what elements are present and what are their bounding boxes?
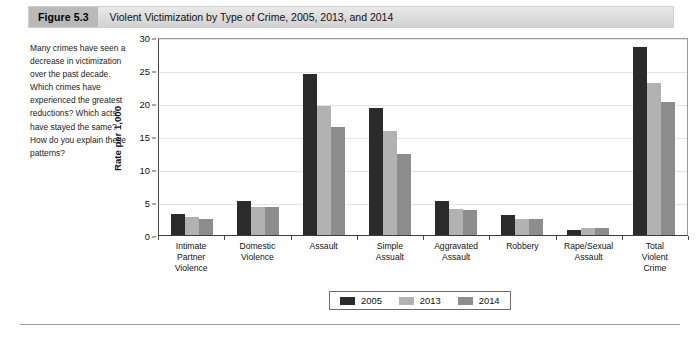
x-axis-tick — [423, 236, 424, 240]
legend-swatch-icon — [458, 297, 473, 305]
x-axis-label-line: Total — [622, 241, 688, 252]
y-axis-tick-30: 30 — [140, 33, 150, 44]
x-axis-label-2: Assault — [291, 241, 357, 273]
x-axis-tick — [489, 236, 490, 240]
x-axis-label-line: Rape/Sexual — [556, 241, 622, 252]
x-axis-label-line: Assault — [291, 241, 357, 252]
bar-2013 — [581, 228, 595, 235]
x-axis-label-6: Rape/SexualAssault — [556, 241, 622, 273]
x-axis-label-line: Partner — [158, 252, 224, 263]
bar-group — [621, 39, 687, 235]
x-axis-category-labels: IntimatePartnerViolenceDomesticViolenceA… — [158, 241, 688, 273]
x-axis-label-line: Assualt — [357, 252, 423, 263]
x-axis-label-7: TotalViolentCrime — [622, 241, 688, 273]
chart-legend: 200520132014 — [329, 291, 511, 310]
x-axis-label-line: Assault — [556, 252, 622, 263]
figure-title: Violent Victimization by Type of Crime, … — [98, 11, 394, 23]
x-axis-label-1: DomesticViolence — [224, 241, 290, 273]
bar-2013 — [185, 217, 199, 235]
bar-2005 — [237, 201, 251, 235]
x-axis-label-line: Intimate — [158, 241, 224, 252]
y-axis-title-label: Rate per 1,000 — [113, 105, 124, 170]
legend-item-2013[interactable]: 2013 — [399, 295, 441, 306]
legend-label: 2013 — [420, 295, 441, 306]
bar-2013 — [251, 207, 265, 235]
bar-2013 — [515, 219, 529, 235]
bar-2014 — [595, 228, 609, 235]
x-axis-tick — [688, 236, 689, 240]
x-axis-label-line: Violence — [224, 252, 290, 263]
legend-item-2005[interactable]: 2005 — [340, 295, 382, 306]
bar-2014 — [199, 219, 213, 235]
bar-group — [423, 39, 489, 235]
bar-group — [291, 39, 357, 235]
bar-group — [357, 39, 423, 235]
x-axis-tick — [622, 236, 623, 240]
x-axis-tick — [556, 236, 557, 240]
bar-group — [489, 39, 555, 235]
bar-group — [159, 39, 225, 235]
x-axis-label-3: SimpleAssualt — [357, 241, 423, 273]
y-axis-tick-5: 5 — [145, 198, 150, 209]
x-axis-label-line: Robbery — [489, 241, 555, 252]
x-axis-label-0: IntimatePartnerViolence — [158, 241, 224, 273]
x-axis-tick — [158, 236, 159, 240]
y-axis-tick-15: 15 — [140, 132, 150, 143]
bar-2005 — [633, 47, 647, 235]
x-axis-tick — [291, 236, 292, 240]
bar-2005 — [435, 201, 449, 235]
x-axis-label-4: AggravatedAssault — [423, 241, 489, 273]
x-axis-tick — [357, 236, 358, 240]
x-axis-label-line: Domestic — [224, 241, 290, 252]
bar-2014 — [661, 102, 675, 235]
page-bottom-rule — [20, 324, 680, 325]
figure-header-bar: Figure 5.3 Violent Victimization by Type… — [28, 6, 674, 28]
bar-group — [225, 39, 291, 235]
legend-swatch-icon — [340, 297, 355, 305]
bar-2013 — [317, 106, 331, 235]
bar-2014 — [529, 219, 543, 235]
y-axis-title: Rate per 1,000 — [108, 38, 128, 238]
y-axis-tick-0: 0 — [145, 231, 150, 242]
x-axis-label-line: Violence — [158, 263, 224, 274]
y-axis-tick-10: 10 — [140, 165, 150, 176]
y-axis-tick-25: 25 — [140, 66, 150, 77]
x-axis-label-line: Violent — [622, 252, 688, 263]
bar-2005 — [567, 230, 581, 235]
bar-2013 — [647, 83, 661, 235]
bar-2005 — [303, 74, 317, 235]
plot-area — [158, 38, 688, 236]
legend-label: 2005 — [361, 295, 382, 306]
bar-2013 — [449, 209, 463, 235]
y-axis-tick-labels: 051015202530 — [132, 38, 156, 236]
y-axis-tick-20: 20 — [140, 99, 150, 110]
bar-2014 — [463, 210, 477, 235]
bar-group — [555, 39, 621, 235]
bar-2005 — [501, 215, 515, 235]
bar-groups — [159, 39, 687, 235]
bar-2005 — [369, 108, 383, 235]
bar-chart: Rate per 1,000 051015202530 IntimatePart… — [108, 38, 688, 288]
x-axis-label-line: Assault — [423, 252, 489, 263]
bar-2014 — [397, 154, 411, 235]
bar-2005 — [171, 214, 185, 235]
legend-swatch-icon — [399, 297, 414, 305]
x-axis-label-line: Simple — [357, 241, 423, 252]
legend-item-2014[interactable]: 2014 — [458, 295, 500, 306]
x-axis-label-line: Aggravated — [423, 241, 489, 252]
bar-2013 — [383, 131, 397, 235]
x-axis-label-line: Crime — [622, 263, 688, 274]
figure-number-tag: Figure 5.3 — [29, 7, 98, 27]
plot-outer: 051015202530 IntimatePartnerViolenceDome… — [132, 38, 688, 288]
x-axis-label-5: Robbery — [489, 241, 555, 273]
x-axis-tick — [224, 236, 225, 240]
legend-label: 2014 — [479, 295, 500, 306]
bar-2014 — [331, 127, 345, 235]
bar-2014 — [265, 207, 279, 235]
